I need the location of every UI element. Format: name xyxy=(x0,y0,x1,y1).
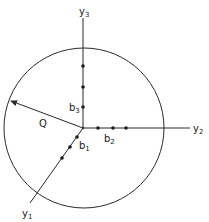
coordinate-diagram: y3 y2 y1 Q b3 b2 b1 xyxy=(0,0,209,222)
label-b2: b2 xyxy=(104,133,115,146)
point xyxy=(75,135,79,139)
point xyxy=(96,126,100,130)
axis-label-y2: y2 xyxy=(193,123,203,136)
axis-label-y3: y3 xyxy=(79,6,89,19)
axis-label-y1: y1 xyxy=(22,208,32,221)
axis-y1 xyxy=(30,128,83,203)
point xyxy=(124,126,128,130)
point xyxy=(81,64,85,68)
label-b1: b1 xyxy=(79,140,90,153)
label-b3: b3 xyxy=(69,102,80,115)
point xyxy=(81,85,85,89)
point xyxy=(81,105,85,109)
point xyxy=(60,156,64,160)
point xyxy=(111,126,115,130)
radius-label: Q xyxy=(39,118,47,129)
point xyxy=(68,145,72,149)
